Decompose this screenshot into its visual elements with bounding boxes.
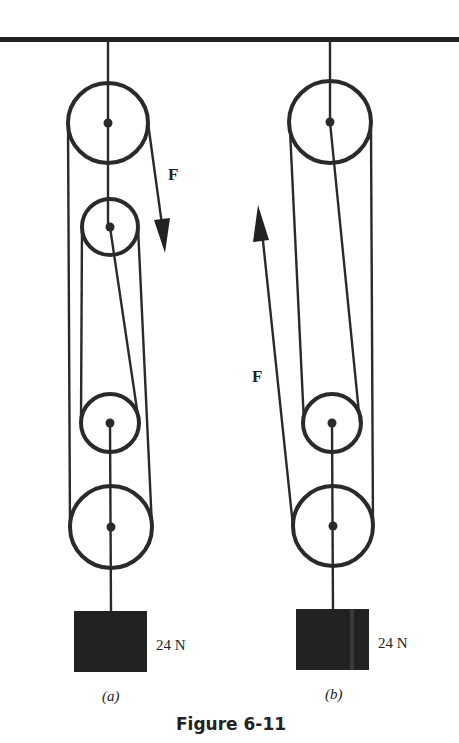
rope-a-inner-left — [81, 227, 82, 423]
rope-b-right — [371, 130, 373, 526]
weight-label-b: 24 N — [378, 635, 408, 651]
sublabel-a: (a) — [102, 688, 120, 705]
pulley-figure: F 24 N (a) F 24 N (b) Figure 6-11 — [0, 0, 459, 743]
weight-block-b — [296, 609, 369, 670]
hanger-rope-b — [332, 423, 333, 609]
weight-label-a: 24 N — [156, 637, 186, 653]
rope-a-outer-right — [138, 227, 152, 527]
weight-block-a — [74, 611, 147, 672]
pulley-system-b: F 24 N (b) — [252, 40, 408, 703]
force-label-a: F — [168, 165, 178, 184]
force-arrow-up-icon — [253, 205, 269, 242]
force-label-b: F — [252, 367, 262, 386]
hanger-rope-a — [110, 423, 111, 611]
rope-b-left — [290, 130, 304, 423]
block-highlight-b — [350, 609, 354, 670]
rope-a-outer-left — [68, 123, 70, 527]
force-rope-a — [148, 123, 163, 232]
figure-caption: Figure 6-11 — [176, 714, 286, 734]
sublabel-b: (b) — [325, 686, 343, 703]
pulley-system-a: F 24 N (a) — [68, 40, 186, 705]
axle-a1 — [104, 119, 113, 128]
force-rope-b — [261, 222, 293, 526]
force-arrow-down-icon — [154, 218, 170, 253]
ceiling-beam — [0, 37, 459, 42]
rope-b-diagonal — [330, 122, 360, 423]
